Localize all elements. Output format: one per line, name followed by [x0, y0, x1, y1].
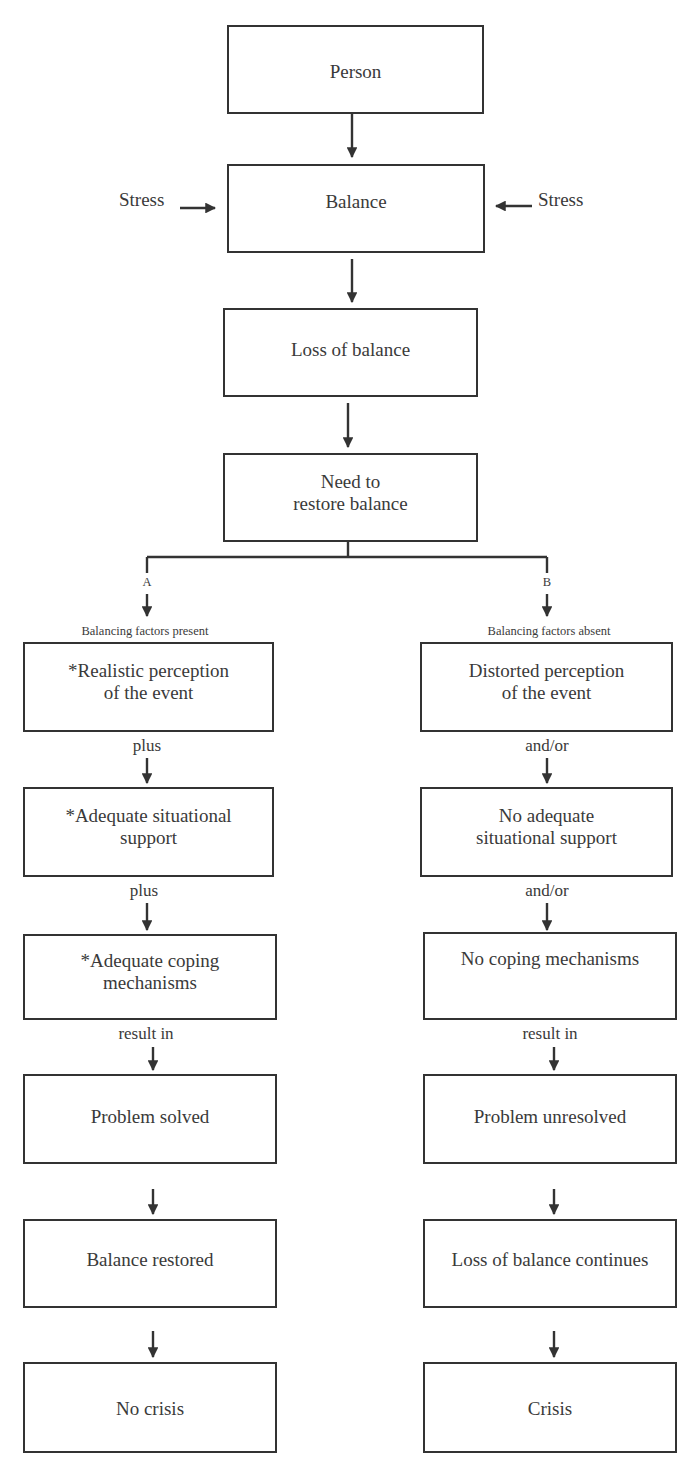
balance-label: Balance [321, 191, 390, 213]
a-box-coping-mechanisms: *Adequate coping mechanisms [23, 934, 277, 1020]
a-box4-label: Problem solved [87, 1106, 214, 1128]
a-conn2-label: plus [130, 881, 158, 901]
person-box: Person [227, 25, 484, 114]
a-box3-line2: mechanisms [99, 972, 201, 994]
a-box-problem-solved: Problem solved [23, 1074, 277, 1164]
b-box1-line1: Distorted perception [465, 660, 629, 682]
need-line1: Need to [317, 471, 385, 493]
a-conn3-label: result in [118, 1024, 173, 1044]
stress-left-label: Stress [119, 189, 164, 211]
b-conn3-label: result in [522, 1024, 577, 1044]
b-box2-line1: No adequate [495, 805, 598, 827]
b-box-problem-unresolved: Problem unresolved [423, 1074, 677, 1164]
loss-of-balance-box: Loss of balance [223, 308, 478, 397]
a-box-balance-restored: Balance restored [23, 1219, 277, 1308]
a-box6-label: No crisis [112, 1398, 188, 1420]
b-box1-line2: of the event [498, 682, 596, 704]
branch-b-letter: B [543, 575, 551, 590]
a-box-no-crisis: No crisis [23, 1362, 277, 1453]
b-conn2-label: and/or [525, 881, 568, 901]
b-box5-label: Loss of balance continues [448, 1249, 653, 1271]
b-box-no-situational-support: No adequate situational support [420, 787, 673, 877]
need-line2: restore balance [289, 493, 411, 515]
person-label: Person [326, 61, 386, 83]
b-box3-line1: No coping mechanisms [457, 948, 643, 970]
a-box1-line1: *Realistic perception [64, 660, 233, 682]
a-conn1-label: plus [133, 736, 161, 756]
a-box2-line2: support [116, 827, 181, 849]
need-to-restore-box: Need to restore balance [223, 453, 478, 542]
b-box-crisis: Crisis [423, 1362, 677, 1453]
branch-a-heading: Balancing factors present [81, 624, 208, 639]
b-box-distorted-perception: Distorted perception of the event [420, 642, 673, 732]
b-box6-label: Crisis [524, 1398, 576, 1420]
a-box1-line2: of the event [100, 682, 198, 704]
a-box-realistic-perception: *Realistic perception of the event [23, 642, 274, 732]
branch-b-heading: Balancing factors absent [488, 624, 611, 639]
b-box2-line2: situational support [472, 827, 621, 849]
balance-box: Balance [227, 164, 485, 253]
loss-of-balance-label: Loss of balance [287, 339, 414, 361]
a-box5-label: Balance restored [82, 1249, 217, 1271]
b-box-no-coping-mechanisms: No coping mechanisms [423, 932, 677, 1020]
a-box-situational-support: *Adequate situational support [23, 787, 274, 877]
a-box3-line1: *Adequate coping [77, 950, 224, 972]
b-conn1-label: and/or [525, 736, 568, 756]
stress-right-label: Stress [538, 189, 583, 211]
b-box-loss-of-balance-continues: Loss of balance continues [423, 1219, 677, 1308]
branch-a-letter: A [142, 575, 151, 590]
a-box2-line1: *Adequate situational [61, 805, 235, 827]
b-box4-label: Problem unresolved [470, 1106, 631, 1128]
